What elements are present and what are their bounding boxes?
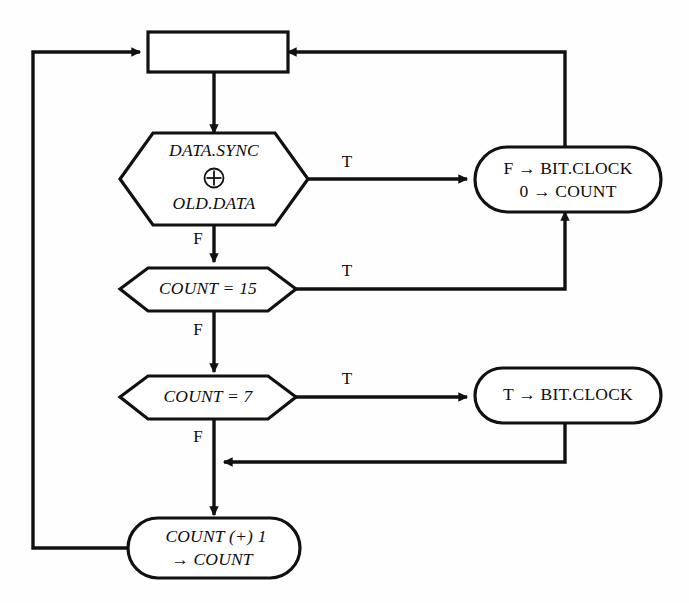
branch-label-xor-true: T <box>342 152 353 171</box>
edge-count15-true-to-reset <box>296 212 565 289</box>
xor-icon <box>205 169 224 188</box>
action-reset-line2: 0 → COUNT <box>519 181 616 201</box>
decision-xor-line2: OLD.DATA <box>173 193 256 213</box>
flowchart-svg: DATA.SYNC OLD.DATA COUNT = 15 COUNT = 7 … <box>0 0 689 603</box>
action-increment-line2: → COUNT <box>171 549 254 569</box>
node-decision-count-7[interactable]: COUNT = 7 <box>120 376 296 419</box>
node-action-reset[interactable]: F → BIT.CLOCK 0 → COUNT <box>475 147 661 212</box>
decision-count-15-label: COUNT = 15 <box>159 278 257 298</box>
flowchart-canvas: DATA.SYNC OLD.DATA COUNT = 15 COUNT = 7 … <box>0 0 689 603</box>
edge-setclock-to-increment-merge <box>224 423 565 462</box>
node-action-increment[interactable]: COUNT (+) 1 → COUNT <box>128 518 300 578</box>
branch-label-count15-true: T <box>342 261 353 280</box>
decision-count-7-label: COUNT = 7 <box>163 386 253 406</box>
node-decision-xor[interactable]: DATA.SYNC OLD.DATA <box>120 133 308 225</box>
edge-increment-to-entry <box>33 52 148 548</box>
branch-label-xor-false: F <box>193 229 202 248</box>
node-decision-count-15[interactable]: COUNT = 15 <box>120 268 296 311</box>
branch-label-count7-false: F <box>193 427 202 446</box>
branch-label-count7-true: T <box>342 369 353 388</box>
edge-reset-to-entry <box>288 52 565 152</box>
branch-label-count15-false: F <box>193 320 202 339</box>
action-reset-line1: F → BIT.CLOCK <box>503 158 632 178</box>
node-action-set-clock[interactable]: T → BIT.CLOCK <box>475 368 661 423</box>
action-set-clock-label: T → BIT.CLOCK <box>503 384 633 404</box>
action-increment-line1: COUNT (+) 1 <box>165 526 266 546</box>
decision-xor-line1: DATA.SYNC <box>168 140 259 160</box>
node-entry-box[interactable] <box>148 32 288 72</box>
